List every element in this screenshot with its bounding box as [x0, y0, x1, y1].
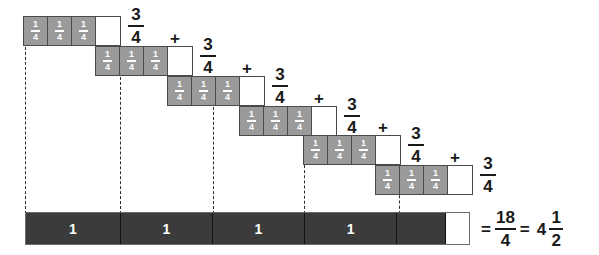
quarter-numerator: 1 — [201, 80, 206, 89]
plus-sign: + — [242, 60, 252, 77]
quarter-tile: 14 — [352, 136, 376, 164]
whole-bar-segment: 1 — [26, 213, 121, 244]
quarter-numerator: 1 — [33, 20, 38, 29]
row-sum-denominator: 4 — [347, 119, 356, 136]
quarter-tile: 14 — [400, 166, 424, 194]
quarter-tile: 14 — [72, 17, 96, 45]
plus-sign: + — [378, 119, 388, 136]
fraction-bar — [480, 174, 496, 176]
quarter-tile: 14 — [24, 17, 48, 45]
whole-bar-segment — [397, 213, 446, 244]
quarter-fraction-label: 14 — [431, 169, 440, 190]
mixed-whole-part: 4 — [537, 221, 546, 238]
fraction-bar — [495, 228, 516, 230]
quarter-fraction-label: 14 — [31, 20, 40, 41]
quarter-numerator: 1 — [249, 110, 254, 119]
quarter-tile-strip: 141414 — [23, 16, 121, 46]
fraction-bar — [128, 25, 144, 27]
row-sum-numerator: 3 — [347, 96, 356, 113]
quarter-tile-strip: 141414 — [167, 76, 265, 106]
quarter-tile: 14 — [304, 136, 328, 164]
quarter-denominator: 4 — [57, 33, 62, 42]
mixed-fraction-part: 1 2 — [549, 209, 563, 249]
equals-sign-1: = — [481, 221, 491, 238]
quarter-tile: 14 — [424, 166, 448, 194]
empty-tile — [96, 17, 120, 45]
row-sum-denominator: 4 — [483, 178, 492, 195]
quarter-tile: 14 — [192, 77, 216, 105]
fraction-bar — [549, 228, 563, 230]
quarter-denominator: 4 — [177, 93, 182, 102]
row-sum-fraction: 34 — [200, 36, 216, 76]
quarter-fraction-label: 14 — [295, 110, 304, 131]
row-sum-numerator: 3 — [275, 66, 284, 83]
quarter-denominator: 4 — [361, 152, 366, 161]
fraction-bar — [344, 115, 360, 117]
quarter-denominator: 4 — [105, 63, 110, 72]
quarter-numerator: 1 — [129, 50, 134, 59]
quarter-tile-strip: 141414 — [95, 46, 193, 76]
quarter-numerator: 1 — [361, 139, 366, 148]
fraction-staircase-figure: 14141434141414+34141414+34141414+3414141… — [0, 0, 599, 255]
quarter-fraction-label: 14 — [55, 20, 64, 41]
plus-sign: + — [450, 149, 460, 166]
dashed-guide-line — [120, 72, 121, 214]
quarter-fraction-label: 14 — [127, 50, 136, 71]
quarter-tile: 14 — [216, 77, 240, 105]
row-sum-fraction: 34 — [128, 6, 144, 46]
quarter-tile: 14 — [328, 136, 352, 164]
quarter-fraction-label: 14 — [383, 169, 392, 190]
mixed-denominator: 2 — [551, 232, 562, 249]
quarter-numerator: 1 — [337, 139, 342, 148]
whole-bar-empty-segment — [446, 213, 469, 244]
quarter-tile: 14 — [144, 47, 168, 75]
row-sum-fraction: 34 — [408, 125, 424, 165]
row-sum-fraction: 34 — [344, 96, 360, 136]
whole-bar-segment: 1 — [121, 213, 214, 244]
empty-tile — [240, 77, 264, 105]
quarter-fraction-label: 14 — [103, 50, 112, 71]
row-sum-numerator: 3 — [131, 6, 140, 23]
quarter-tile: 14 — [240, 107, 264, 135]
empty-tile — [312, 107, 336, 135]
empty-tile — [168, 47, 192, 75]
quarter-numerator: 1 — [81, 20, 86, 29]
mixed-numerator: 1 — [551, 209, 562, 226]
row-sum-numerator: 3 — [203, 36, 212, 53]
dashed-guide-line — [213, 102, 214, 214]
quarter-numerator: 1 — [273, 110, 278, 119]
quarter-fraction-label: 14 — [223, 80, 232, 101]
quarter-numerator: 1 — [57, 20, 62, 29]
plus-sign: + — [170, 30, 180, 47]
row-sum-denominator: 4 — [203, 59, 212, 76]
quarter-fraction-label: 14 — [79, 20, 88, 41]
quarter-numerator: 1 — [433, 169, 438, 178]
dashed-guide-line — [25, 42, 26, 214]
improper-denominator: 4 — [500, 232, 511, 249]
row-sum-numerator: 3 — [411, 125, 420, 142]
quarter-numerator: 1 — [153, 50, 158, 59]
quarter-fraction-label: 14 — [199, 80, 208, 101]
result-equation: = 18 4 = 4 1 2 — [478, 210, 564, 248]
quarter-fraction-label: 14 — [151, 50, 160, 71]
quarter-fraction-label: 14 — [407, 169, 416, 190]
row-sum-denominator: 4 — [275, 89, 284, 106]
quarter-fraction-label: 14 — [247, 110, 256, 131]
quarter-numerator: 1 — [385, 169, 390, 178]
quarter-tile: 14 — [264, 107, 288, 135]
quarter-denominator: 4 — [297, 123, 302, 132]
quarter-denominator: 4 — [81, 33, 86, 42]
quarter-numerator: 1 — [177, 80, 182, 89]
whole-bar-label: 1 — [255, 221, 263, 237]
empty-tile — [376, 136, 400, 164]
quarter-tile-strip: 141414 — [239, 106, 337, 136]
row-sum-denominator: 4 — [131, 29, 140, 46]
whole-bar-label: 1 — [69, 221, 77, 237]
quarter-denominator: 4 — [433, 182, 438, 191]
quarter-tile: 14 — [288, 107, 312, 135]
improper-numerator: 18 — [495, 209, 516, 226]
equals-sign-2: = — [520, 221, 530, 238]
quarter-numerator: 1 — [313, 139, 318, 148]
quarter-denominator: 4 — [409, 182, 414, 191]
quarter-tile: 14 — [168, 77, 192, 105]
